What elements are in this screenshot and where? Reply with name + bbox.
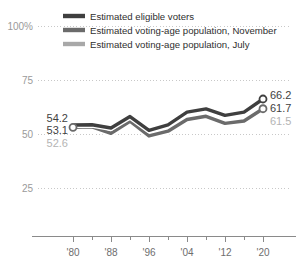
legend-label-1: Estimated voting-age population, Novembe… (90, 25, 277, 36)
start-value-label-0: 54.2 (47, 112, 68, 124)
start-value-label-1: 53.1 (47, 124, 68, 136)
start-value-label-2: 52.6 (47, 137, 68, 149)
x-axis-label-'12: '12 (218, 247, 231, 258)
end-marker-0 (260, 96, 267, 103)
legend-label-0: Estimated eligible voters (90, 11, 194, 22)
x-axis-label-'80: '80 (66, 247, 79, 258)
start-marker-1 (70, 124, 77, 131)
x-axis-label-'20: '20 (256, 247, 269, 258)
x-axis-label-'04: '04 (180, 247, 193, 258)
y-axis-label-75: 75 (22, 75, 34, 86)
y-axis-label-25: 25 (22, 183, 34, 194)
x-axis-label-'96: '96 (142, 247, 155, 258)
end-marker-1 (260, 105, 267, 112)
y-axis-label-50: 50 (22, 129, 34, 140)
y-axis-label-100%: 100% (7, 21, 33, 32)
end-value-label-2: 61.5 (270, 115, 291, 127)
legend-label-2: Estimated voting-age population, July (90, 39, 250, 50)
chart-canvas: 255075100%'80'88'96'04'12'2054.253.152.6… (0, 0, 306, 277)
end-value-label-1: 61.7 (270, 102, 291, 114)
turnout-line-chart: 255075100%'80'88'96'04'12'2054.253.152.6… (0, 0, 306, 277)
x-axis-label-'88: '88 (104, 247, 117, 258)
end-value-label-0: 66.2 (270, 89, 291, 101)
